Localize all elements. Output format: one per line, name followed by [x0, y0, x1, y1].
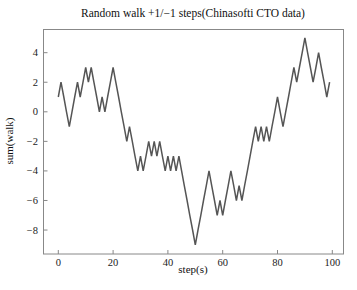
x-tick-label: 80 — [272, 257, 283, 268]
x-axis-label: step(s) — [178, 263, 208, 276]
plot-area-frame — [44, 30, 344, 255]
walk-line-series — [58, 38, 329, 245]
x-tick-label: 60 — [217, 257, 228, 268]
y-tick-label: −2 — [27, 136, 38, 147]
y-axis-label: sum(walk) — [3, 117, 16, 164]
x-tick-label: 20 — [108, 257, 119, 268]
y-tick-label: −4 — [27, 165, 39, 176]
y-tick-label: 0 — [33, 106, 38, 117]
y-tick-label: 2 — [33, 77, 38, 88]
chart-title: Random walk +1/−1 steps(Chinasofti CTO d… — [81, 7, 305, 20]
y-axis: 420−2−4−6−8 — [27, 47, 48, 235]
y-tick-label: −8 — [27, 225, 38, 236]
random-walk-chart: Random walk +1/−1 steps(Chinasofti CTO d… — [0, 0, 357, 290]
x-tick-label: 0 — [56, 257, 61, 268]
y-tick-label: −6 — [27, 195, 38, 206]
x-tick-label: 40 — [163, 257, 174, 268]
y-tick-label: 4 — [33, 47, 39, 58]
x-tick-label: 100 — [324, 257, 340, 268]
